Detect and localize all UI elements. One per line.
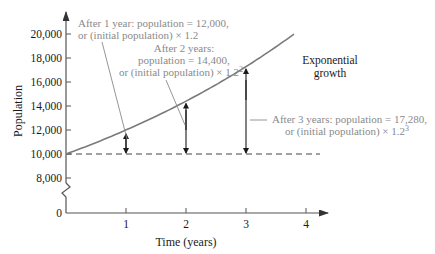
svg-text:growth: growth (314, 67, 347, 80)
annotation-year1: After 1 year: population = 12,000, or (i… (78, 17, 229, 42)
x-tick-label: 1 (123, 218, 129, 230)
svg-text:or (initial population) × 1.23: or (initial population) × 1.23 (285, 124, 409, 138)
y-tick-label: 8,000 (36, 172, 62, 185)
curve-label: Exponential growth (302, 54, 358, 80)
svg-text:After 3 years: population = 17: After 3 years: population = 17,280, (272, 113, 427, 125)
axis-break-icon (62, 183, 70, 213)
y-tick-label: 14,000 (30, 100, 62, 113)
annotation-year2: After 2 years: population = 14,400, or (… (119, 42, 243, 79)
y-tick-label: 18,000 (30, 52, 62, 65)
svg-text:or (initial population) × 1.2: or (initial population) × 1.2 (78, 29, 198, 42)
y-tick-label: 12,000 (30, 124, 62, 137)
x-tick-label: 3 (243, 218, 249, 230)
y-tick-label: 16,000 (30, 76, 62, 89)
y-tick-label: 10,000 (30, 148, 62, 161)
y-tick-label: 0 (56, 207, 62, 219)
x-tick-label: 4 (303, 218, 309, 230)
exponential-growth-chart: 20,000 18,000 16,000 14,000 12,000 10,00… (0, 0, 435, 254)
x-axis: 1 2 3 4 Time (years) (66, 208, 328, 249)
svg-text:After 1 year: population = 12,: After 1 year: population = 12,000, (78, 17, 229, 29)
svg-text:Exponential: Exponential (302, 54, 358, 67)
svg-text:or (initial population) × 1.22: or (initial population) × 1.22 (119, 65, 243, 79)
x-tick-label: 2 (183, 218, 189, 230)
y-tick-label: 20,000 (30, 28, 62, 41)
growth-arrows (126, 69, 246, 153)
y-axis: 20,000 18,000 16,000 14,000 12,000 10,00… (11, 12, 71, 219)
svg-text:population = 14,400,: population = 14,400, (138, 54, 230, 66)
x-axis-title: Time (years) (155, 235, 216, 249)
y-axis-title: Population (11, 85, 25, 137)
svg-text:After 2 years:: After 2 years: (154, 42, 214, 54)
annotation-year3: After 3 years: population = 17,280, or (… (272, 113, 427, 138)
